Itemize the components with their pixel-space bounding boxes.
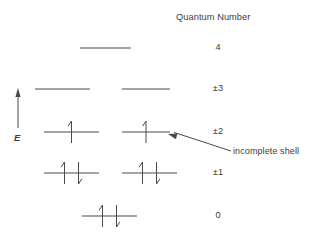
leader-arrowhead [168,133,177,139]
energy-axis-arrowhead [15,88,20,97]
electron-arrow-barb [99,205,102,210]
energy-level [44,162,177,184]
quantum-number-label: 0 [198,210,238,220]
electron-arrow-barb [79,179,82,184]
orbital [122,162,177,184]
diagram-vector-layer [0,0,320,237]
electron-arrow-barb [157,179,160,184]
electron-arrow-barb [143,121,146,126]
quantum-number-label: ±3 [198,83,238,93]
energy-axis-label: E [14,132,20,143]
quantum-number-label: 4 [198,42,238,52]
energy-level-diagram: Quantum Number E incomplete shell 4±3±2±… [0,0,320,237]
quantum-number-label: ±2 [198,126,238,136]
electron-arrow-barb [139,162,142,167]
electron-arrow-barb [117,222,120,227]
energy-axis-arrow [15,88,20,128]
orbital [122,121,170,143]
electron-arrow-barb [68,121,71,126]
energy-level [44,121,170,143]
electron-arrow-barb [61,162,64,167]
energy-level [82,205,137,227]
chart-title: Quantum Number [176,12,250,22]
quantum-number-label: ±1 [198,167,238,177]
orbital [44,121,99,143]
incomplete-shell-annotation: incomplete shell [233,146,299,156]
orbital [82,205,137,227]
orbital [44,162,99,184]
